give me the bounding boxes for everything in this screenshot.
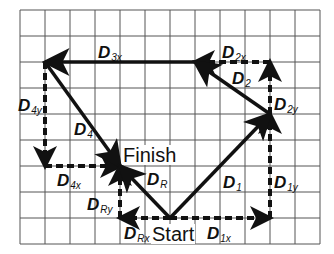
label-d2: D2	[232, 70, 251, 87]
label-d2y: D2y	[274, 96, 298, 113]
label-drx: DRx	[124, 225, 150, 242]
label-dry: DRy	[87, 196, 113, 213]
label-d4x: D4x	[57, 172, 81, 189]
start-label: Start	[151, 224, 195, 244]
label-d1x: D1x	[207, 225, 231, 242]
label-d2x: D2x	[222, 44, 246, 61]
vector-diagram	[0, 0, 334, 254]
label-d1y: D1y	[274, 174, 298, 191]
label-dr: DR	[147, 171, 168, 188]
finish-label: Finish	[122, 145, 177, 165]
label-d1: D1	[223, 174, 242, 191]
grid	[20, 10, 320, 244]
label-d3x: D3x	[98, 44, 122, 61]
label-d4y: D4y	[18, 97, 42, 114]
label-d4: D4	[74, 121, 93, 138]
